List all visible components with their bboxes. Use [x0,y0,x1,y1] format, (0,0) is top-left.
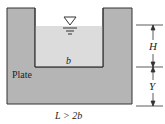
dimension-lines [136,25,163,106]
width-label: b [66,56,71,66]
dimension-h-label: H [149,41,157,52]
plate-label: Plate [12,70,32,80]
plate-diagram [0,0,165,124]
length-condition-label: L > 2b [55,111,82,121]
dimension-y-label: Y [149,81,155,92]
